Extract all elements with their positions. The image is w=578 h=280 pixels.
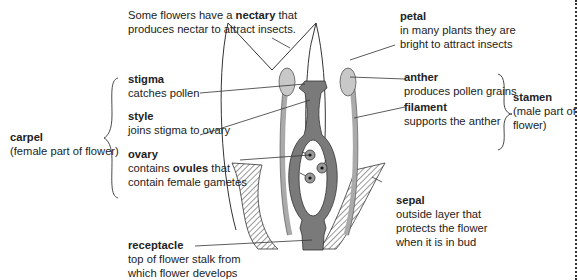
stamen-desc: (male part of (513, 105, 576, 117)
petal-label: petal in many plants they are bright to … (400, 9, 516, 51)
carpel-desc: (female part of flower) (10, 145, 119, 157)
stamen-desc-2: flower) (513, 119, 547, 131)
petal-name: petal (400, 9, 516, 23)
carpel-name: carpel (10, 130, 119, 144)
nectary-note: Some flowers have a nectary that produce… (128, 8, 297, 36)
stamen-name: stamen (513, 90, 576, 104)
sepal-label: sepal outside layer that protects the fl… (396, 193, 487, 249)
petal-desc-2: bright to attract insects (400, 38, 513, 50)
filament-desc: supports the anther (404, 115, 500, 127)
nectary-text-line2: produces nectar to attract insects. (128, 23, 296, 35)
anther-name: anther (404, 70, 517, 84)
anther-desc: produces pollen grains (404, 85, 517, 97)
nectary-term: nectary (236, 9, 276, 21)
sepal-name: sepal (396, 193, 487, 207)
ovary-label: ovary contains ovules that contain femal… (128, 147, 247, 189)
stigma-label: stigma catches pollen (128, 72, 200, 100)
petal-desc: in many plants they are (400, 24, 516, 36)
ovary-desc-end: that (208, 162, 230, 174)
ovules-term: ovules (173, 162, 208, 174)
filament-label: filament supports the anther (404, 100, 500, 128)
receptacle-name: receptacle (128, 238, 241, 252)
ovary-desc-2: contain female gametes (128, 176, 247, 188)
sepal-desc-2: protects the flower (396, 222, 487, 234)
stigma-name: stigma (128, 72, 200, 86)
nectary-text: Some flowers have a (128, 9, 236, 21)
filament-name: filament (404, 100, 500, 114)
anther-label: anther produces pollen grains (404, 70, 517, 98)
ovary-name: ovary (128, 147, 247, 161)
style-label: style joins stigma to ovary (128, 109, 230, 137)
sepal-desc-3: when it is in bud (396, 236, 476, 248)
sepal-desc: outside layer that (396, 208, 481, 220)
nectary-text-end: that (275, 9, 297, 21)
carpel-label: carpel (female part of flower) (10, 130, 119, 158)
stigma-desc: catches pollen (128, 87, 200, 99)
receptacle-label: receptacle top of flower stalk from whic… (128, 238, 241, 280)
style-desc: joins stigma to ovary (128, 124, 230, 136)
ovary-desc: contains (128, 162, 173, 174)
receptacle-desc-2: which flower develops (128, 267, 237, 279)
style-name: style (128, 109, 230, 123)
stamen-label: stamen (male part of flower) (513, 90, 576, 132)
dotted-border (575, 0, 577, 280)
receptacle-desc: top of flower stalk from (128, 253, 241, 265)
